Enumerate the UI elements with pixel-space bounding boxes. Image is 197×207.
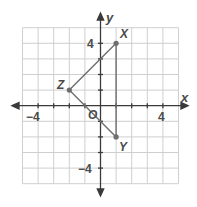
point-y (114, 134, 119, 139)
tick-label-y-4: 4 (87, 37, 94, 51)
coordinate-plane: y x O 4 −4 −4 4 X Y Z (0, 0, 197, 207)
tick-label-x-4: 4 (158, 110, 165, 124)
point-label-z: Z (56, 78, 65, 92)
origin-label: O (88, 108, 98, 122)
y-axis-arrow-down-icon (97, 189, 103, 196)
point-z (67, 88, 72, 93)
x-axis-label: x (180, 90, 189, 105)
tick-label-x-neg4: −4 (26, 110, 40, 124)
y-axis-arrow-up-icon (97, 13, 103, 20)
tick-label-y-neg4: −4 (78, 162, 92, 176)
point-label-x: X (119, 27, 129, 41)
point-label-y: Y (119, 140, 128, 154)
y-axis-label: y (105, 10, 114, 25)
point-x (114, 41, 119, 46)
x-axis-arrow-left-icon (12, 103, 19, 109)
